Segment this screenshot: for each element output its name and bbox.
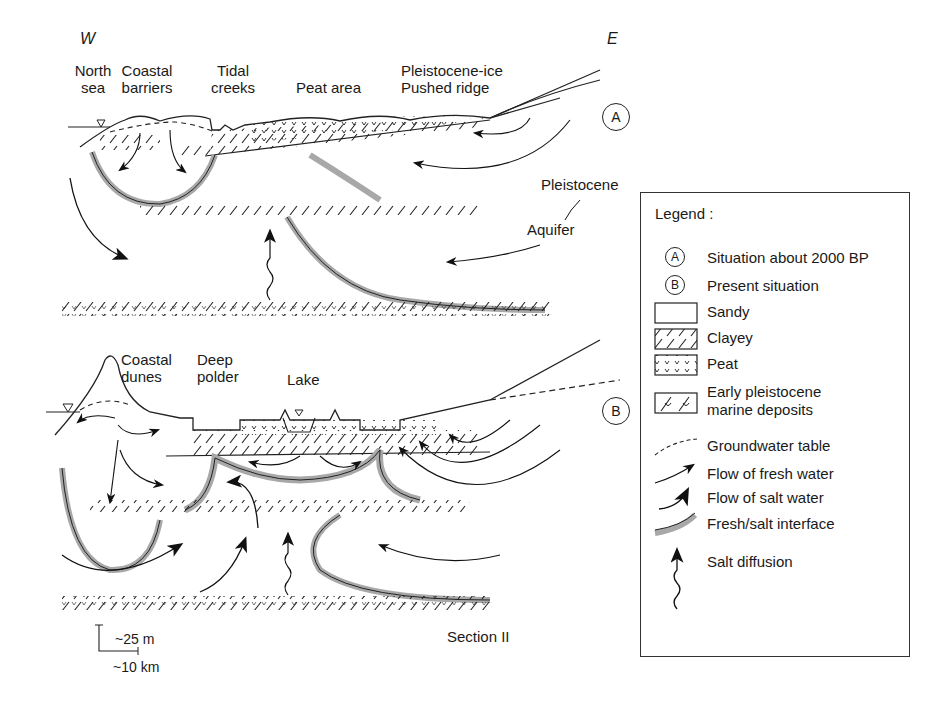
sandy-swatch-icon bbox=[653, 299, 701, 325]
east-label: E bbox=[607, 30, 618, 48]
clayey-swatch-icon bbox=[653, 325, 701, 351]
fresh-salt-interface-icon bbox=[653, 511, 701, 537]
legend-item-salt-water-flow: Flow of salt water bbox=[641, 485, 911, 511]
salt-diffusion-icon bbox=[653, 543, 701, 613]
label-coastal-dunes: Coastal dunes bbox=[121, 351, 172, 385]
marine-swatch-icon bbox=[653, 391, 701, 417]
dashed-line-icon bbox=[653, 433, 701, 459]
fresh-water-arrow-icon bbox=[653, 461, 701, 487]
label-peat-area: Peat area bbox=[296, 79, 361, 96]
legend-item-situation-2000bp: A Situation about 2000 BP bbox=[641, 245, 911, 271]
label-pushed-ridge: Pleistocene-ice Pushed ridge bbox=[401, 62, 503, 96]
salt-water-arrow-icon bbox=[653, 485, 701, 511]
west-label: W bbox=[80, 30, 95, 48]
label-north-sea: North sea bbox=[68, 62, 118, 96]
legend-title: Legend : bbox=[655, 205, 713, 222]
scale-vertical: ~25 m bbox=[115, 631, 154, 648]
panel-b-marker: B bbox=[602, 397, 630, 425]
peat-swatch-icon bbox=[653, 351, 701, 377]
legend-item-interface: Fresh/salt interface bbox=[641, 511, 911, 537]
label-pleistocene: Pleistocene bbox=[541, 176, 619, 193]
circle-b-icon: B bbox=[653, 273, 701, 299]
legend-item-salt-diffusion: Salt diffusion bbox=[641, 543, 911, 613]
legend-item-fresh-water-flow: Flow of fresh water bbox=[641, 461, 911, 487]
legend-item-present: B Present situation bbox=[641, 273, 911, 299]
panel-a bbox=[62, 70, 600, 316]
label-tidal-creeks: Tidal creeks bbox=[203, 62, 263, 96]
label-lake: Lake bbox=[287, 371, 320, 388]
legend-item-clayey: Clayey bbox=[641, 325, 911, 351]
panel-a-marker: A bbox=[602, 103, 630, 131]
label-aquifer: Aquifer bbox=[527, 221, 575, 238]
scale-horizontal: ~10 km bbox=[113, 659, 159, 676]
legend: Legend : A Situation about 2000 BP B Pre… bbox=[640, 192, 910, 657]
legend-item-sandy: Sandy bbox=[641, 299, 911, 325]
legend-item-groundwater-table: Groundwater table bbox=[641, 433, 911, 459]
label-section: Section II bbox=[447, 628, 510, 645]
legend-item-marine: Early pleistocene marine deposits bbox=[641, 383, 911, 423]
label-deep-polder: Deep polder bbox=[197, 351, 239, 385]
label-coastal-barriers: Coastal barriers bbox=[112, 62, 182, 96]
circle-a-icon: A bbox=[653, 245, 701, 271]
legend-item-peat: Peat bbox=[641, 351, 911, 377]
